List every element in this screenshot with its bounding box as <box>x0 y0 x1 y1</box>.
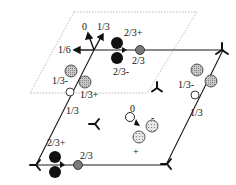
label-center-plus: + <box>133 147 139 157</box>
atom-black <box>111 52 123 64</box>
atom-open <box>191 91 199 99</box>
label-center-minus: - <box>151 113 154 123</box>
label-bottom-2-3: 2/3 <box>80 151 93 161</box>
label-2-3minus: 2/3- <box>113 67 129 77</box>
atom-open <box>66 88 74 96</box>
atom-black <box>111 37 123 49</box>
atom-black <box>49 151 61 163</box>
atom-grey <box>136 46 145 55</box>
label-2-3plus: 2/3+ <box>124 28 142 38</box>
atom-hatched <box>205 75 217 87</box>
label-2-3: 2/3 <box>132 56 145 66</box>
label-1-3: 1/3 <box>97 22 110 32</box>
label-center-0: 0 <box>130 104 135 114</box>
atom-grey <box>74 161 83 170</box>
atom-hatched <box>79 76 91 88</box>
unit-cell-diagram <box>0 0 236 185</box>
label-1-3plus-left: 1/3+ <box>80 90 98 100</box>
label-1-6: 1/6 <box>58 45 71 55</box>
atom-dotted <box>133 131 145 143</box>
atom-black <box>49 166 61 178</box>
atom-hatched <box>191 64 203 76</box>
label-1-3minus-left: 1/3- <box>52 76 68 86</box>
label-1-3minus-right: 1/3- <box>178 80 194 90</box>
label-0: 0 <box>82 22 87 32</box>
label-bottom-2-3plus: 2/3+ <box>47 138 65 148</box>
label-1-3-left-edge: 1/3 <box>66 106 79 116</box>
label-1-3-right-edge: 1/3 <box>190 108 203 118</box>
